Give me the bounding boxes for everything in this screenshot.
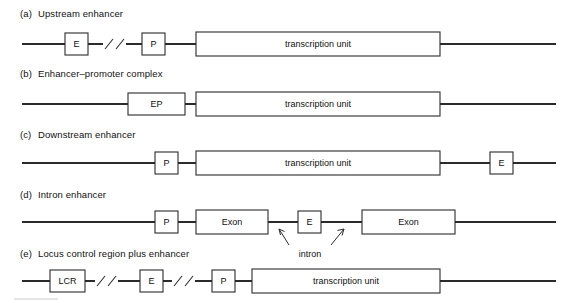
promoter-box-label: P	[150, 39, 156, 49]
intron-pointer-left-icon	[279, 229, 289, 245]
intron-pointer-right-shaft	[331, 229, 344, 245]
panel-d-title: Intron enhancer	[38, 189, 106, 200]
transcription-unit-label: transcription unit	[285, 39, 352, 49]
panel-e-break-symbol-2	[174, 276, 193, 286]
enhancer-promoter-box-label: EP	[150, 99, 162, 109]
panel-d-promoter-box: P	[155, 211, 178, 233]
panel-b: (b) Enhancer–promoter complex EP transcr…	[20, 68, 556, 116]
panel-a-marker: (a)	[20, 8, 32, 19]
intron-annotation-label: intron	[299, 249, 322, 259]
intron-pointer-right-icon	[331, 229, 344, 245]
panel-e-lcr-box: LCR	[50, 270, 85, 292]
scan-edge-artifact	[14, 298, 58, 300]
enhancer-box-label: E	[306, 217, 312, 227]
panel-c-title: Downstream enhancer	[38, 129, 135, 140]
panel-c: (c) Downstream enhancer P transcription …	[20, 129, 556, 175]
promoter-box-label: P	[163, 217, 169, 227]
panel-b-enhancer-promoter-box: EP	[128, 93, 185, 115]
break1-slash-2	[108, 276, 116, 286]
transcription-unit-label: transcription unit	[285, 99, 352, 109]
break1-slash-1	[97, 276, 105, 286]
panel-d-exon-box-2: Exon	[362, 210, 455, 234]
panel-a-promoter-box: P	[142, 33, 165, 55]
panel-c-promoter-box: P	[155, 152, 178, 174]
panel-e-title: Locus control region plus enhancer	[38, 248, 189, 259]
break2-slash-1	[174, 276, 182, 286]
panel-c-transcription-unit: transcription unit	[196, 151, 440, 175]
panel-a: (a) Upstream enhancer E P	[20, 8, 556, 56]
panel-a-title: Upstream enhancer	[38, 8, 123, 19]
panel-e-transcription-unit: transcription unit	[252, 269, 440, 293]
transcription-unit-label: transcription unit	[313, 276, 380, 286]
panel-c-marker: (c)	[20, 129, 31, 140]
enhancer-box-label: E	[498, 158, 504, 168]
panel-a-enhancer-box: E	[65, 33, 88, 55]
panel-e-break-symbol-1	[97, 276, 116, 286]
panel-e-enhancer-box: E	[140, 270, 163, 292]
panel-e: (e) Locus control region plus enhancer L…	[20, 248, 556, 293]
panel-e-marker: (e)	[20, 248, 32, 259]
panel-c-enhancer-box: E	[490, 152, 513, 174]
panel-d-marker: (d)	[20, 189, 32, 200]
panel-b-title: Enhancer–promoter complex	[38, 68, 163, 79]
exon-box-2-label: Exon	[398, 217, 419, 227]
break2-slash-2	[185, 276, 193, 286]
exon-box-1-label: Exon	[222, 217, 243, 227]
lcr-box-label: LCR	[58, 276, 77, 286]
panel-d-exon-box-1: Exon	[196, 210, 268, 234]
enhancer-box-label: E	[73, 39, 79, 49]
panel-d-enhancer-box: E	[298, 211, 321, 233]
promoter-box-label: P	[220, 276, 226, 286]
panel-b-transcription-unit: transcription unit	[196, 92, 440, 116]
promoter-box-label: P	[163, 158, 169, 168]
figure-canvas: (a) Upstream enhancer E P	[0, 0, 573, 301]
panel-b-marker: (b)	[20, 68, 32, 79]
enhancer-position-figure: (a) Upstream enhancer E P	[0, 0, 573, 301]
panel-a-transcription-unit: transcription unit	[196, 32, 440, 56]
break-slash-2	[116, 39, 124, 49]
transcription-unit-label: transcription unit	[285, 158, 352, 168]
break-slash-1	[105, 39, 113, 49]
panel-a-break-symbol	[105, 39, 124, 49]
enhancer-box-label: E	[148, 276, 154, 286]
panel-e-promoter-box: P	[212, 270, 235, 292]
